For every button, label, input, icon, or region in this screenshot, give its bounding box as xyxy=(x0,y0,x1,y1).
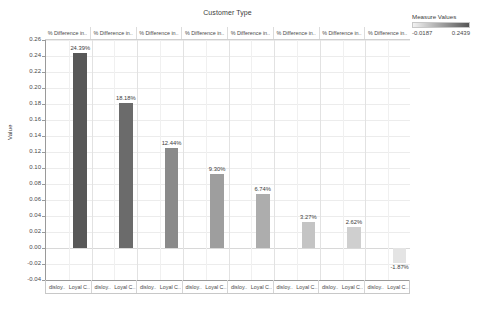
x-axis-panel: disloy..Loyal C.. xyxy=(318,280,364,293)
y-axis-tick-label: 0.24 xyxy=(1,52,41,58)
y-axis-tick-label: 0.18 xyxy=(1,100,41,106)
panel-separator xyxy=(274,40,275,280)
bar-value-label: 12.44% xyxy=(156,140,186,146)
y-axis-tick-label: 0.26 xyxy=(1,36,41,42)
bar-value-label: 9.30% xyxy=(202,166,232,172)
bar-value-label: 3.27% xyxy=(293,214,323,220)
panel-header: % Difference in.. xyxy=(319,27,365,39)
legend-max-value: 0.2439 xyxy=(452,30,470,36)
y-axis-tick-label: 0.00 xyxy=(1,244,41,250)
panel-separator xyxy=(365,40,366,280)
y-axis-tick-label: -0.02 xyxy=(1,260,41,266)
panel-header: % Difference in.. xyxy=(181,27,227,39)
bar-value-label: -1.87% xyxy=(385,264,415,270)
x-axis-tick-label: disloy.. xyxy=(183,280,205,293)
bar[interactable] xyxy=(210,174,224,248)
y-axis-tick-label: -0.04 xyxy=(1,276,41,282)
panel-header-band: % Difference in..% Difference in..% Diff… xyxy=(45,27,410,40)
panel-separator xyxy=(137,40,138,280)
panel-separator xyxy=(92,40,93,280)
page-title: Customer Type xyxy=(45,9,410,16)
legend-min-value: -0.0187 xyxy=(412,30,432,36)
x-axis-tick-label: disloy.. xyxy=(274,280,296,293)
subpanel-separator xyxy=(69,40,70,280)
subpanel-separator xyxy=(114,40,115,280)
x-axis-panel: disloy..Loyal C.. xyxy=(227,280,273,293)
bar-value-label: 18.18% xyxy=(111,95,141,101)
chart-canvas: Customer Type Measure Values -0.0187 0.2… xyxy=(0,0,478,314)
x-axis-tick-label: disloy.. xyxy=(92,280,114,293)
x-axis-tick-label: Loyal C.. xyxy=(205,280,227,293)
x-axis-tick-label: Loyal C.. xyxy=(296,280,318,293)
legend-title: Measure Values xyxy=(412,13,474,20)
y-axis-tick-label: 0.08 xyxy=(1,180,41,186)
panel-header: % Difference in.. xyxy=(90,27,136,39)
subpanel-separator xyxy=(343,40,344,280)
y-axis-tick-label: 0.20 xyxy=(1,84,41,90)
x-axis-panel: disloy..Loyal C.. xyxy=(273,280,319,293)
bar-value-label: 24.39% xyxy=(65,45,95,51)
panel-separator xyxy=(183,40,184,280)
bar[interactable] xyxy=(256,194,270,248)
x-axis-tick-label: disloy.. xyxy=(137,280,159,293)
x-axis-tick-label: Loyal C.. xyxy=(68,280,90,293)
subpanel-separator xyxy=(297,40,298,280)
x-axis-tick-label: disloy.. xyxy=(228,280,250,293)
plot-inner: 24.39%18.18%12.44%9.30%6.74%3.27%2.62%-1… xyxy=(45,40,410,280)
y-axis-tick-label: 0.16 xyxy=(1,116,41,122)
x-axis-tick-label: Loyal C.. xyxy=(250,280,272,293)
x-axis-tick-label: disloy.. xyxy=(365,280,387,293)
panel-header: % Difference in.. xyxy=(227,27,273,39)
x-axis-tick-label: disloy.. xyxy=(46,280,68,293)
x-axis-tick-label: Loyal C.. xyxy=(114,280,136,293)
plot-area: 24.39%18.18%12.44%9.30%6.74%3.27%2.62%-1… xyxy=(45,40,410,280)
panel-header: % Difference in.. xyxy=(45,27,90,39)
y-axis-tick-label: 0.10 xyxy=(1,164,41,170)
bar[interactable] xyxy=(347,227,361,248)
subpanel-separator xyxy=(388,40,389,280)
bar[interactable] xyxy=(302,222,316,248)
subpanel-separator xyxy=(206,40,207,280)
x-axis-labels: disloy..Loyal C..disloy..Loyal C..disloy… xyxy=(45,280,410,294)
x-axis-panel: disloy..Loyal C.. xyxy=(136,280,182,293)
bar[interactable] xyxy=(393,248,407,263)
y-axis-tick-label: 0.22 xyxy=(1,68,41,74)
x-axis-tick-label: Loyal C.. xyxy=(159,280,181,293)
bar-value-label: 6.74% xyxy=(248,186,278,192)
subpanel-separator xyxy=(160,40,161,280)
legend: Measure Values -0.0187 0.2439 xyxy=(412,13,474,36)
bar[interactable] xyxy=(165,148,179,248)
x-axis-panel: disloy..Loyal C.. xyxy=(91,280,137,293)
legend-gradient-swatch[interactable] xyxy=(412,22,470,28)
x-axis-panel: disloy..Loyal C.. xyxy=(182,280,228,293)
y-axis-tick-label: 0.04 xyxy=(1,212,41,218)
y-axis-tick-label: 0.12 xyxy=(1,148,41,154)
x-axis-tick-label: Loyal C.. xyxy=(387,280,409,293)
bar-value-label: 2.62% xyxy=(339,219,369,225)
panel-header: % Difference in.. xyxy=(273,27,319,39)
x-axis-tick-label: disloy.. xyxy=(319,280,341,293)
x-axis-panel: disloy..Loyal C.. xyxy=(364,280,410,293)
bar[interactable] xyxy=(73,53,87,248)
panel-separator xyxy=(229,40,230,280)
x-axis-panel: disloy..Loyal C.. xyxy=(46,280,91,293)
bar[interactable] xyxy=(119,103,133,248)
y-axis-tick-label: 0.14 xyxy=(1,132,41,138)
legend-scale: -0.0187 0.2439 xyxy=(412,30,470,36)
y-axis-tick-label: 0.02 xyxy=(1,228,41,234)
panel-header: % Difference in.. xyxy=(364,27,410,39)
x-axis-tick-label: Loyal C.. xyxy=(341,280,363,293)
subpanel-separator xyxy=(251,40,252,280)
panel-separator xyxy=(320,40,321,280)
panel-header: % Difference in.. xyxy=(136,27,182,39)
y-axis-tick-label: 0.06 xyxy=(1,196,41,202)
